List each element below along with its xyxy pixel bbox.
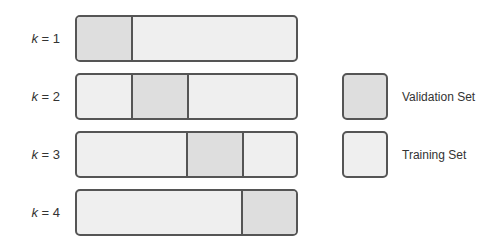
legend-swatch-validation xyxy=(342,73,388,120)
validation-segment xyxy=(241,191,296,234)
fold-label-2: k = 2 xyxy=(0,89,60,104)
fold-bar-1 xyxy=(75,15,298,62)
fold-bar-2 xyxy=(75,73,298,120)
fold-bar-4 xyxy=(75,189,298,236)
fold-value: = 4 xyxy=(38,205,60,220)
legend-label-training: Training Set xyxy=(402,148,466,162)
fold-bar-3 xyxy=(75,131,298,178)
fold-label-4: k = 4 xyxy=(0,205,60,220)
validation-segment xyxy=(186,133,244,176)
fold-value: = 2 xyxy=(38,89,60,104)
validation-segment xyxy=(131,75,189,118)
validation-segment xyxy=(77,17,133,60)
legend-swatch-training xyxy=(342,131,388,178)
legend-label-validation: Validation Set xyxy=(402,90,475,104)
fold-value: = 1 xyxy=(38,31,60,46)
fold-label-1: k = 1 xyxy=(0,31,60,46)
fold-value: = 3 xyxy=(38,147,60,162)
fold-label-3: k = 3 xyxy=(0,147,60,162)
